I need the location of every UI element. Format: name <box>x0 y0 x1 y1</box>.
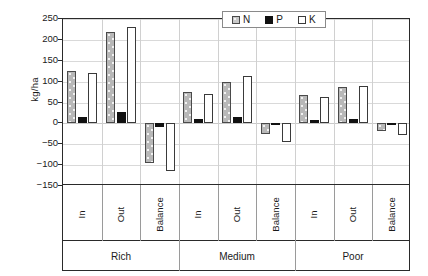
gridline <box>63 165 409 166</box>
legend-item-p: P <box>265 14 283 25</box>
bar-p-2 <box>155 123 164 126</box>
bar-k-0 <box>88 73 97 123</box>
bar-n-5 <box>261 123 270 133</box>
bar-p-8 <box>387 123 396 125</box>
bar-k-7 <box>359 86 368 124</box>
group-axis: RichMediumPoor <box>62 241 410 271</box>
y-tick-label: 50 <box>12 97 58 107</box>
category-label: In <box>309 211 320 219</box>
gray-dotted-swatch-icon <box>232 16 240 24</box>
category-tick-5: Balance <box>256 185 295 241</box>
category-axis-divider <box>372 185 373 241</box>
category-label: In <box>77 211 88 219</box>
zero-line <box>63 123 409 124</box>
chart-legend: NPK <box>222 11 326 28</box>
black-swatch-icon <box>265 16 273 24</box>
category-tick-3: In <box>179 185 218 241</box>
group-label-rich: Rich <box>63 241 179 271</box>
category-separator <box>179 19 180 184</box>
bar-p-5 <box>271 123 280 125</box>
category-axis-divider <box>218 185 219 241</box>
group-label-text: Poor <box>342 251 363 262</box>
category-separator <box>218 19 219 184</box>
category-label: Out <box>347 207 358 222</box>
bar-k-6 <box>320 97 329 123</box>
bar-k-5 <box>282 123 291 142</box>
category-label: Out <box>231 207 242 222</box>
category-tick-6: In <box>295 185 334 241</box>
category-axis-divider <box>140 185 141 241</box>
bar-p-0 <box>78 117 87 123</box>
bar-p-7 <box>349 119 358 123</box>
group-axis-divider <box>179 241 180 271</box>
category-axis-divider <box>295 185 296 241</box>
bar-n-0 <box>67 71 76 123</box>
category-separator <box>256 19 257 184</box>
y-axis-title: kg/ha <box>29 60 40 120</box>
bar-n-3 <box>183 92 192 123</box>
legend-label: K <box>309 14 316 25</box>
category-axis-divider <box>256 185 257 241</box>
bar-n-7 <box>338 87 347 123</box>
category-axis: InOutBalanceInOutBalanceInOutBalance <box>62 185 410 241</box>
category-label: Out <box>115 207 126 222</box>
category-tick-0: In <box>63 185 102 241</box>
bar-n-8 <box>377 123 386 131</box>
category-separator <box>140 19 141 184</box>
bar-n-4 <box>222 82 231 124</box>
bar-p-1 <box>117 112 126 124</box>
category-tick-1: Out <box>102 185 141 241</box>
category-separator <box>372 19 373 184</box>
category-separator <box>334 19 335 184</box>
category-separator <box>295 19 296 184</box>
y-tick-label: 150 <box>12 55 58 65</box>
category-label: Balance <box>386 197 397 231</box>
bar-p-4 <box>233 117 242 123</box>
category-tick-8: Balance <box>372 185 411 241</box>
y-tick-label: 200 <box>12 34 58 44</box>
category-label: In <box>193 211 204 219</box>
y-tick-label: 100 <box>12 76 58 86</box>
group-label-text: Medium <box>219 251 255 262</box>
bar-n-6 <box>299 95 308 123</box>
group-label-poor: Poor <box>295 241 411 271</box>
legend-label: N <box>243 14 250 25</box>
y-tick-label: −150 <box>12 180 58 190</box>
bar-n-1 <box>106 32 115 124</box>
group-label-text: Rich <box>111 251 131 262</box>
bar-k-3 <box>204 94 213 124</box>
bar-p-6 <box>310 120 319 124</box>
category-tick-4: Out <box>218 185 257 241</box>
legend-item-n: N <box>232 14 250 25</box>
bar-p-3 <box>194 119 203 124</box>
bar-k-4 <box>243 76 252 124</box>
legend-item-k: K <box>298 14 316 25</box>
category-label: Balance <box>270 197 281 231</box>
y-tick-label: −50 <box>12 138 58 148</box>
category-tick-2: Balance <box>140 185 179 241</box>
group-axis-divider <box>295 241 296 271</box>
plot-area <box>62 18 410 185</box>
gridline <box>63 144 409 145</box>
y-tick-label: 0 <box>12 117 58 127</box>
white-swatch-icon <box>298 16 306 24</box>
bar-n-2 <box>145 123 154 163</box>
category-axis-divider <box>179 185 180 241</box>
bar-k-2 <box>166 123 175 170</box>
bar-chart: kg/ha 250200150100500−50−100−150 NPK InO… <box>0 0 428 276</box>
category-separator <box>102 19 103 184</box>
group-label-medium: Medium <box>179 241 295 271</box>
category-axis-divider <box>334 185 335 241</box>
category-label: Balance <box>154 197 165 231</box>
legend-label: P <box>276 14 283 25</box>
category-axis-divider <box>102 185 103 241</box>
category-tick-7: Out <box>334 185 373 241</box>
bar-k-8 <box>398 123 407 135</box>
y-tick-label: 250 <box>12 13 58 23</box>
bar-k-1 <box>127 27 136 123</box>
y-tick-label: −100 <box>12 159 58 169</box>
